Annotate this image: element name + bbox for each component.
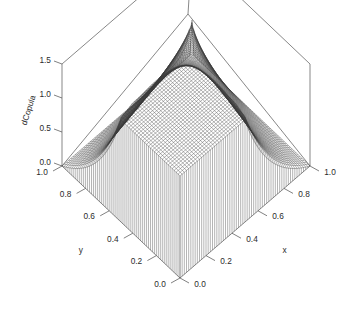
tick-label: 0.0 <box>194 279 206 289</box>
tick-label: 0.6 <box>83 211 95 221</box>
tick-label: 0.6 <box>272 211 284 221</box>
tick-label: 0.5 <box>39 123 51 133</box>
tick-label: 1.0 <box>36 167 48 177</box>
tick-label: 0.4 <box>107 234 119 244</box>
tick-label: 1.0 <box>39 89 51 99</box>
plot-canvas: 0.00.20.40.60.81.00.00.20.40.60.81.00.00… <box>0 0 348 315</box>
tick-label: 0.8 <box>60 189 72 199</box>
tick-label: 0.2 <box>220 256 232 266</box>
tick-label: 0.2 <box>131 256 143 266</box>
tick-label: 1.5 <box>39 55 51 65</box>
tick-label: 0.0 <box>154 279 166 289</box>
tick-label: 0.4 <box>246 234 258 244</box>
tick-label: 0.8 <box>298 189 310 199</box>
surface-plot-figure: 0.00.20.40.60.81.00.00.20.40.60.81.00.00… <box>0 0 348 315</box>
tick-label: 1.0 <box>324 167 336 177</box>
tick-label: 0.0 <box>39 157 51 167</box>
